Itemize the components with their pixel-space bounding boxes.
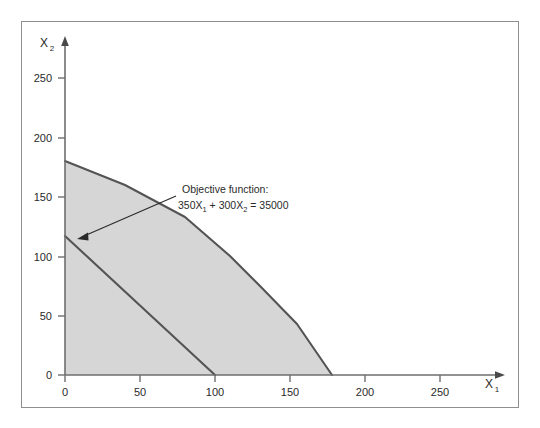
y-tick-label-50: 50 [40,310,52,322]
y-tick-label-100: 100 [34,251,52,263]
equation-part-coef1: 350X [178,199,203,211]
x-tick-label-250: 250 [431,386,449,398]
y-tick-label-250: 250 [34,72,52,84]
objective-function-label-line1: Objective function: [182,183,268,195]
x-axis-title: X [485,377,493,391]
y-axis-title: X [40,36,48,50]
x-axis-title-subscript: 1 [495,385,500,394]
equation-part-coef2: + 300X [207,199,244,211]
figure-container: 250 200 150 100 50 0 X 2 0 50 100 150 20… [0,0,540,428]
x-tick-label-100: 100 [206,386,224,398]
linear-programming-chart: 250 200 150 100 50 0 X 2 0 50 100 150 20… [0,0,540,428]
equation-part-rhs: = 35000 [247,199,288,211]
y-axis-title-subscript: 2 [50,44,55,53]
x-axis-arrowhead [495,371,505,379]
x-tick-label-200: 200 [356,386,374,398]
x-tick-label-150: 150 [281,386,299,398]
x-tick-label-50: 50 [134,386,146,398]
y-tick-label-200: 200 [34,132,52,144]
y-tick-label-0: 0 [46,369,52,381]
y-axis-arrowhead [61,36,69,46]
objective-function-equation: 350X1 + 300X2 = 35000 [178,199,289,214]
x-tick-label-0: 0 [62,386,68,398]
y-tick-label-150: 150 [34,191,52,203]
